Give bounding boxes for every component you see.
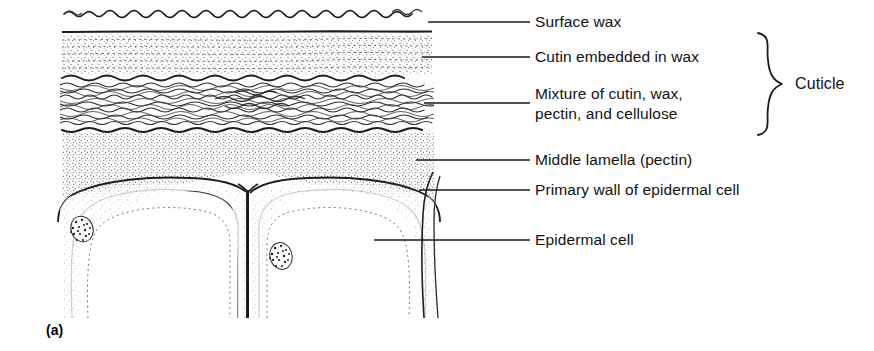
mixture-layer [60, 74, 444, 134]
epidermal-cell-right [250, 178, 440, 318]
surface-wax-layer [64, 10, 422, 18]
diagram-canvas [0, 0, 874, 351]
epidermal-cell-left [58, 178, 247, 318]
cuticle-brace [758, 33, 782, 135]
label-cuticle-group: Cuticle [795, 74, 845, 94]
label-mixture-line1: Mixture of cutin, wax, [535, 84, 683, 104]
panel-label: (a) [46, 322, 63, 338]
label-cutin-embedded-in-wax: Cutin embedded in wax [535, 47, 699, 67]
nucleus-right [267, 240, 295, 272]
label-primary-wall: Primary wall of epidermal cell [535, 180, 740, 200]
cutin-layer [62, 34, 432, 74]
label-epidermal-cell: Epidermal cell [535, 230, 634, 250]
figure-plant-cuticle-diagram: Surface wax Cutin embedded in wax Mixtur… [0, 0, 874, 351]
label-surface-wax: Surface wax [535, 12, 621, 32]
label-middle-lamella: Middle lamella (pectin) [535, 150, 692, 170]
label-mixture-line2: pectin, and cellulose [535, 104, 678, 124]
